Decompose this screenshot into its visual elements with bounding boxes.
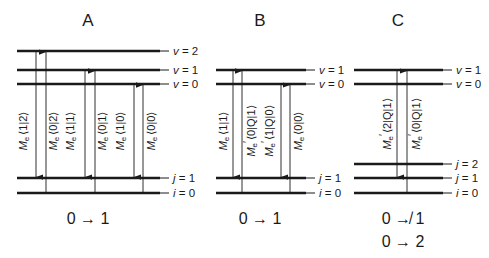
- level-label-j1: j = 1: [454, 172, 478, 184]
- matrix-element-label: Me⟨1|0⟩: [114, 112, 128, 151]
- matrix-element-label: Me′⟨0|Q|1⟩: [241, 105, 259, 156]
- matrix-element-label: Me⟨1|1⟩: [64, 112, 78, 151]
- level-label-v1: v = 1: [173, 64, 198, 76]
- level-label-j1: j = 1: [317, 172, 341, 184]
- transition-label: 0 → 1: [239, 210, 282, 227]
- transition-label-forbidden: 0 ↛ 1: [382, 210, 425, 227]
- transition-label: 0 → 1: [67, 210, 110, 227]
- panel-a: A v = 2 v = 1 v = 0 j = 1 i = 0 Me⟨1|2⟩ …: [17, 11, 198, 227]
- level-label-i0: i = 0: [319, 187, 341, 199]
- matrix-element-label: Me′⟨2|Q|1⟩: [377, 98, 395, 149]
- level-label-i0: i = 0: [173, 187, 195, 199]
- level-label-i0: i = 0: [456, 187, 478, 199]
- matrix-element-label: Me⟨0|1⟩: [96, 112, 110, 151]
- transition-label-allowed: 0 → 2: [382, 233, 425, 250]
- matrix-element-label: Me⟨0|0⟩: [145, 112, 159, 151]
- matrix-element-label: Me⟨0|2⟩: [47, 112, 61, 151]
- matrix-element-label: Me′⟨0|Q|1⟩: [406, 98, 424, 149]
- panel-c-title: C: [392, 11, 404, 30]
- matrix-element-label: Me′⟨1|Q|0⟩: [259, 105, 277, 156]
- panel-c: C v = 1 v = 0 j = 2 j = 1 i = 0 Me′⟨2|Q|…: [354, 11, 481, 250]
- panel-a-title: A: [82, 11, 94, 30]
- level-label-v1: v = 1: [319, 64, 344, 76]
- panel-b-title: B: [254, 11, 265, 30]
- energy-level-diagram: A v = 2 v = 1 v = 0 j = 1 i = 0 Me⟨1|2⟩ …: [0, 0, 489, 258]
- level-label-j1: j = 1: [171, 172, 195, 184]
- level-label-j2: j = 2: [454, 158, 478, 170]
- panel-b: B v = 1 v = 0 j = 1 i = 0 Me⟨1|1⟩ Me′⟨0|…: [216, 11, 344, 227]
- matrix-element-label: Me⟨0|0⟩: [292, 112, 306, 151]
- level-label-v0: v = 0: [456, 78, 481, 90]
- level-label-v1: v = 1: [456, 64, 481, 76]
- level-label-v0: v = 0: [319, 78, 344, 90]
- matrix-element-label: Me⟨1|2⟩: [17, 112, 31, 151]
- matrix-element-label: Me⟨1|1⟩: [217, 112, 231, 151]
- level-label-v2: v = 2: [173, 45, 198, 57]
- level-label-v0: v = 0: [173, 78, 198, 90]
